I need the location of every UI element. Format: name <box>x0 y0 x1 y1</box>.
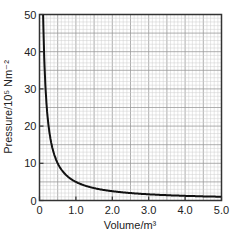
x-tick-label: 0 <box>36 204 42 216</box>
pressure-volume-chart: 01.02.03.04.05.0 01020304050 Volume/m³ P… <box>0 0 236 236</box>
x-tick-label: 3.0 <box>141 204 156 216</box>
y-axis-label: Pressure/10⁵ Nm⁻² <box>2 60 14 154</box>
x-tick-label: 5.0 <box>214 204 229 216</box>
y-tick-label: 0 <box>30 195 36 207</box>
x-axis-label: Volume/m³ <box>104 219 157 231</box>
y-tick-label: 30 <box>24 83 36 95</box>
x-tick-label: 4.0 <box>177 204 192 216</box>
x-axis-ticks: 01.02.03.04.05.0 <box>36 197 229 216</box>
y-tick-label: 40 <box>24 46 36 58</box>
y-tick-label: 20 <box>24 120 36 132</box>
x-tick-label: 1.0 <box>68 204 83 216</box>
y-tick-label: 50 <box>24 9 36 21</box>
x-tick-label: 2.0 <box>105 204 120 216</box>
data-curve <box>43 15 221 197</box>
grid <box>40 15 222 201</box>
y-tick-label: 10 <box>24 157 36 169</box>
